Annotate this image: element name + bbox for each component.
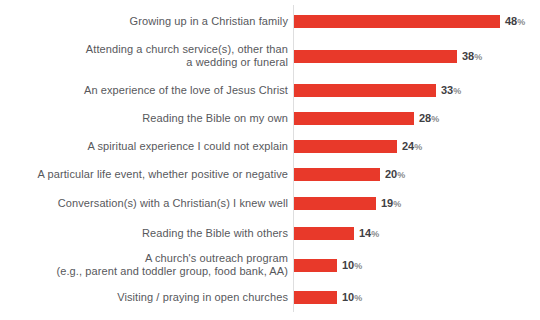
value-number: 19 (381, 197, 393, 209)
bar-label-text: Visiting / praying in open churches (117, 291, 288, 303)
bar-row: Conversation(s) with a Christian(s) I kn… (0, 188, 540, 218)
bar-row: Growing up in a Christian family 48% (0, 6, 540, 36)
value-label: 19% (381, 197, 401, 209)
bar-label: Conversation(s) with a Christian(s) I kn… (0, 197, 288, 210)
value-number: 28 (419, 112, 431, 124)
bar-label: Reading the Bible with others (0, 227, 288, 240)
percent-sign: % (371, 229, 379, 239)
bar-row: A spiritual experience I could not expla… (0, 132, 540, 160)
bar-area: 28% (294, 112, 439, 125)
bar (294, 197, 376, 210)
bar-label: A particular life event, whether positiv… (0, 168, 288, 181)
bar-label-text: An experience of the love of Jesus Chris… (84, 84, 288, 96)
bar-area: 10% (294, 259, 362, 272)
value-number: 48 (505, 15, 517, 27)
bar (294, 140, 397, 153)
value-label: 38% (462, 50, 482, 62)
value-label: 20% (385, 168, 405, 180)
value-number: 14 (359, 227, 371, 239)
bar-label-text: A church's outreach program (145, 252, 288, 264)
value-label: 24% (402, 140, 422, 152)
bar-area: 14% (294, 227, 379, 240)
bar-label-text: A particular life event, whether positiv… (38, 168, 289, 180)
bar-row: Reading the Bible on my own 28% (0, 104, 540, 132)
bar (294, 15, 500, 28)
bar-label-text-line2: (e.g., parent and toddler group, food ba… (0, 265, 288, 278)
value-number: 10 (342, 259, 354, 271)
value-label: 48% (505, 15, 525, 27)
bar (294, 112, 414, 125)
bar-chart: Growing up in a Christian family 48% Att… (0, 0, 540, 320)
value-number: 38 (462, 50, 474, 62)
bar-area: 24% (294, 140, 422, 153)
bar-area: 48% (294, 15, 525, 28)
bar-label: Visiting / praying in open churches (0, 291, 288, 304)
value-number: 24 (402, 140, 414, 152)
bar-row: Visiting / praying in open churches 10% (0, 282, 540, 312)
bar-label-text-line2: a wedding or funeral (0, 56, 288, 69)
percent-sign: % (354, 261, 362, 271)
value-number: 20 (385, 168, 397, 180)
percent-sign: % (517, 17, 525, 27)
value-number: 33 (441, 84, 453, 96)
bar (294, 259, 337, 272)
value-label: 14% (359, 227, 379, 239)
bar-label: A church's outreach program(e.g., parent… (0, 252, 288, 278)
bar (294, 84, 436, 97)
bar-label: Growing up in a Christian family (0, 15, 288, 28)
bar (294, 291, 337, 304)
bar-label-text: A spiritual experience I could not expla… (88, 140, 289, 152)
bar-area: 20% (294, 168, 405, 181)
bar-label: An experience of the love of Jesus Chris… (0, 84, 288, 97)
bar-row: A particular life event, whether positiv… (0, 160, 540, 188)
percent-sign: % (397, 170, 405, 180)
percent-sign: % (393, 199, 401, 209)
bar-area: 10% (294, 291, 362, 304)
percent-sign: % (354, 293, 362, 303)
percent-sign: % (453, 86, 461, 96)
percent-sign: % (474, 52, 482, 62)
bar-label-text: Reading the Bible on my own (142, 112, 288, 124)
bar-area: 33% (294, 84, 461, 97)
value-label: 10% (342, 291, 362, 303)
bar-label: A spiritual experience I could not expla… (0, 140, 288, 153)
bar-label: Attending a church service(s), other tha… (0, 43, 288, 69)
bar-label: Reading the Bible on my own (0, 112, 288, 125)
bar-row: A church's outreach program(e.g., parent… (0, 248, 540, 282)
bar-label-text: Reading the Bible with others (142, 227, 288, 239)
bar-area: 38% (294, 50, 482, 63)
bar-row: An experience of the love of Jesus Chris… (0, 76, 540, 104)
bar-label-text: Conversation(s) with a Christian(s) I kn… (58, 197, 288, 209)
bar (294, 50, 457, 63)
value-label: 28% (419, 112, 439, 124)
value-label: 10% (342, 259, 362, 271)
percent-sign: % (414, 142, 422, 152)
value-label: 33% (441, 84, 461, 96)
bar-row: Reading the Bible with others 14% (0, 218, 540, 248)
bar (294, 227, 354, 240)
percent-sign: % (431, 114, 439, 124)
bar-label-text: Growing up in a Christian family (130, 15, 288, 27)
bar (294, 168, 380, 181)
value-number: 10 (342, 291, 354, 303)
bar-label-text: Attending a church service(s), other tha… (86, 43, 288, 55)
bar-area: 19% (294, 197, 401, 210)
bar-row: Attending a church service(s), other tha… (0, 36, 540, 76)
